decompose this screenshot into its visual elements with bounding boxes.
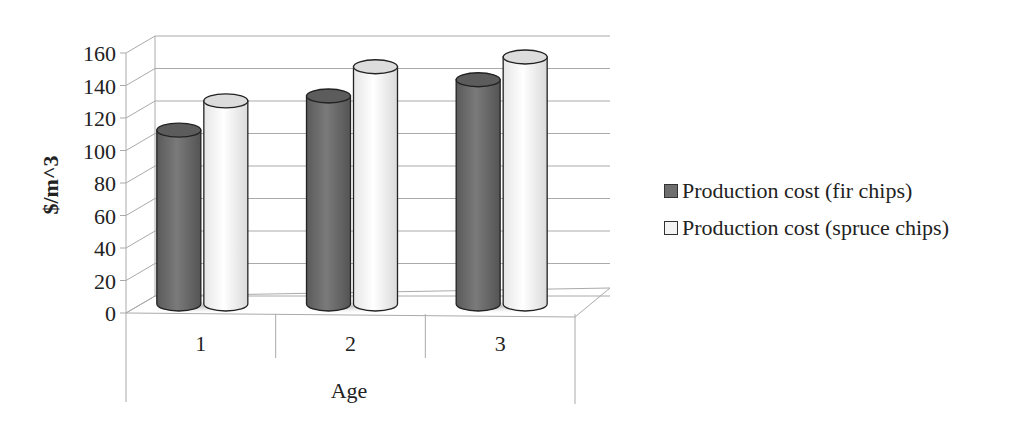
y-tick-label: 60 bbox=[94, 204, 116, 229]
x-tick-label: 3 bbox=[495, 331, 506, 356]
bars bbox=[149, 50, 548, 314]
y-tick-label: 160 bbox=[83, 41, 116, 66]
y-tick-label: 40 bbox=[94, 236, 116, 261]
x-axis: 123 bbox=[195, 314, 575, 404]
x-tick-label: 1 bbox=[195, 331, 206, 356]
y-tick-label: 140 bbox=[83, 74, 116, 99]
bar-spruce-age-2 bbox=[354, 60, 398, 311]
bar-spruce-age-3 bbox=[503, 50, 547, 311]
legend: Production cost (fir chips) Production c… bbox=[664, 172, 949, 246]
x-tick-label: 2 bbox=[345, 331, 356, 356]
legend-swatch-spruce bbox=[664, 221, 678, 235]
legend-label-fir: Production cost (fir chips) bbox=[682, 172, 912, 209]
legend-item-fir: Production cost (fir chips) bbox=[664, 172, 949, 209]
y-tick-label: 80 bbox=[94, 171, 116, 196]
y-tick-label: 120 bbox=[83, 106, 116, 131]
x-axis-label: Age bbox=[331, 378, 368, 403]
y-axis-label: $/m^3 bbox=[38, 155, 63, 214]
y-tick-label: 100 bbox=[83, 139, 116, 164]
legend-swatch-fir bbox=[664, 184, 678, 198]
y-axis-ticks: 020406080100120140160 bbox=[83, 41, 126, 326]
legend-item-spruce: Production cost (spruce chips) bbox=[664, 209, 949, 246]
y-tick-label: 0 bbox=[105, 301, 116, 326]
y-tick-label: 20 bbox=[94, 269, 116, 294]
bar-spruce-age-1 bbox=[204, 94, 248, 311]
legend-label-spruce: Production cost (spruce chips) bbox=[682, 209, 949, 246]
